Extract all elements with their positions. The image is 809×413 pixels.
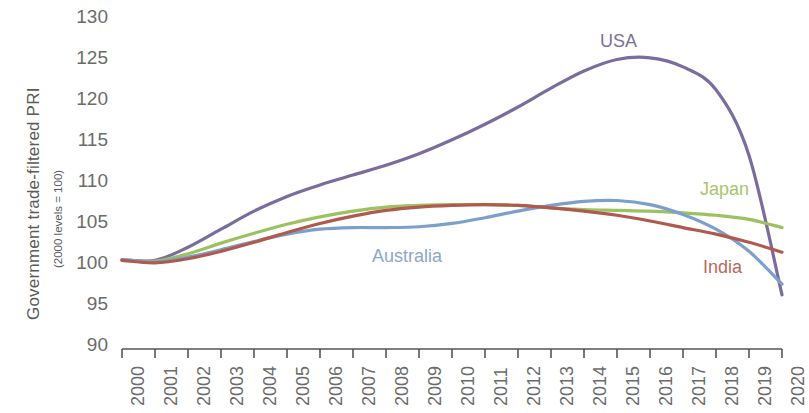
- series-label-japan: Japan: [700, 180, 749, 198]
- series-label-usa: USA: [600, 32, 637, 50]
- series-lines: [122, 57, 782, 295]
- axis-lines: [122, 349, 782, 358]
- plot-area: [0, 0, 809, 413]
- chart-container: Government trade-filtered PRI (2000 leve…: [0, 0, 809, 413]
- series-label-india: India: [703, 258, 742, 276]
- series-line-usa: [122, 57, 782, 295]
- series-label-australia: Australia: [372, 247, 442, 265]
